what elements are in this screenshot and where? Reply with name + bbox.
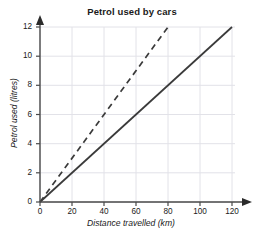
x-tick-label-120: 120 xyxy=(219,207,245,216)
x-axis-title: Distance travelled (km) xyxy=(26,218,236,228)
y-axis-title: Petrol used (litres) xyxy=(9,53,19,173)
x-tick-label-80: 80 xyxy=(155,207,181,216)
y-tick-label-12: 12 xyxy=(10,22,32,31)
arrow-up-icon xyxy=(36,15,44,25)
x-tick-label-20: 20 xyxy=(59,207,85,216)
y-tick-label-0: 0 xyxy=(10,197,32,206)
chart-plot-area xyxy=(0,0,264,234)
arrow-right-icon xyxy=(242,198,252,206)
x-tick-label-60: 60 xyxy=(123,207,149,216)
x-tick-label-40: 40 xyxy=(91,207,117,216)
x-tick-label-100: 100 xyxy=(187,207,213,216)
x-tick-label-0: 0 xyxy=(27,207,53,216)
chart-screenshot: Petrol used by cars xyxy=(0,0,264,234)
